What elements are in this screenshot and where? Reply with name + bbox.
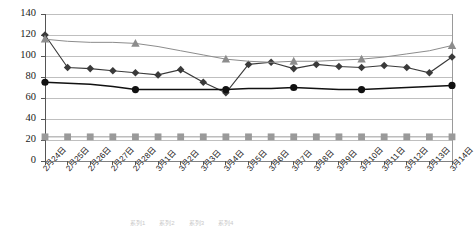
data-marker-square	[358, 133, 365, 140]
legend-entry: 系列2	[159, 220, 174, 226]
series-circle	[41, 79, 455, 94]
data-marker-square	[64, 133, 71, 140]
legend-entry: 系列3	[189, 220, 204, 226]
chart-legend: 系列1系列2系列3系列4	[130, 218, 247, 227]
data-marker-square	[87, 133, 94, 140]
data-marker-square	[403, 133, 410, 140]
data-marker-square	[290, 133, 297, 140]
data-marker-square	[336, 133, 343, 140]
data-marker-square	[245, 133, 252, 140]
data-marker-diamond	[199, 78, 207, 86]
data-marker-circle	[290, 84, 297, 91]
data-marker-diamond	[448, 53, 456, 61]
series-square	[42, 133, 456, 140]
data-marker-diamond	[177, 66, 185, 74]
data-marker-square	[132, 133, 139, 140]
data-marker-circle	[448, 82, 455, 89]
data-marker-circle	[132, 86, 139, 93]
data-marker-diamond	[426, 69, 434, 77]
data-marker-diamond	[335, 63, 343, 71]
data-marker-square	[426, 133, 433, 140]
data-marker-square	[177, 133, 184, 140]
data-marker-diamond	[64, 64, 72, 72]
legend-entry: 系列4	[218, 220, 233, 226]
data-marker-square	[268, 133, 275, 140]
series-line	[45, 82, 452, 89]
data-marker-diamond	[154, 71, 162, 79]
data-marker-diamond	[86, 65, 94, 73]
series-triangle	[41, 35, 456, 65]
data-marker-square	[313, 133, 320, 140]
data-marker-circle	[41, 79, 48, 86]
data-marker-square	[200, 133, 207, 140]
data-marker-triangle	[448, 41, 456, 49]
data-marker-diamond	[380, 62, 388, 70]
series-diamond	[41, 31, 456, 96]
legend-entry: 系列1	[130, 220, 145, 226]
data-marker-square	[222, 133, 229, 140]
data-marker-diamond	[132, 69, 140, 77]
data-marker-square	[381, 133, 388, 140]
data-marker-diamond	[403, 64, 411, 72]
data-marker-square	[155, 133, 162, 140]
data-marker-square	[42, 133, 49, 140]
data-marker-square	[449, 133, 456, 140]
series-line	[45, 39, 452, 62]
data-marker-circle	[358, 86, 365, 93]
data-marker-circle	[222, 86, 229, 93]
data-marker-diamond	[290, 65, 298, 73]
data-marker-diamond	[358, 64, 366, 72]
data-marker-square	[109, 133, 116, 140]
data-marker-diamond	[109, 67, 117, 75]
